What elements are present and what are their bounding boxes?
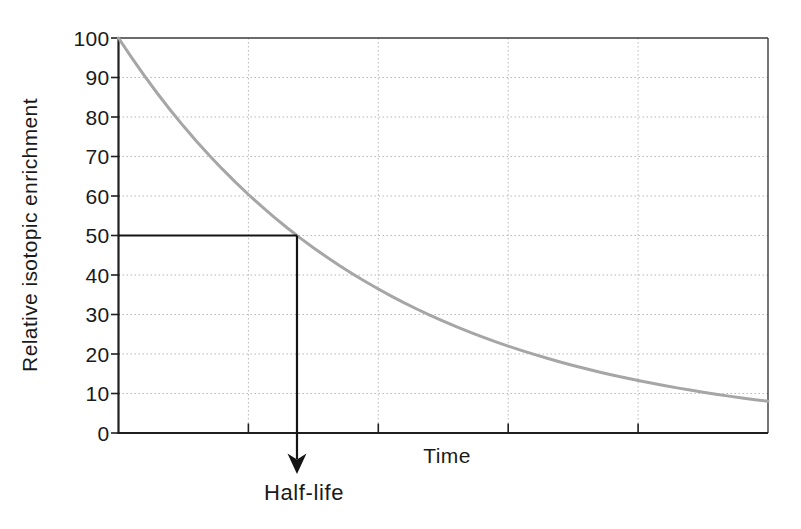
- half-life-annotation: [119, 236, 307, 475]
- x-axis-title: Time: [423, 444, 471, 467]
- y-tick-label: 0: [98, 422, 110, 445]
- y-tick-label: 70: [86, 145, 110, 168]
- decay-curve: [119, 38, 769, 401]
- y-tick-label: 100: [74, 27, 110, 50]
- decay-curve-path: [119, 38, 769, 401]
- half-life-label: Half-life: [264, 480, 344, 505]
- y-tick-label: 30: [86, 303, 110, 326]
- y-axis-title: Relative isotopic enrichment: [18, 98, 41, 372]
- y-tick-label: 60: [86, 185, 110, 208]
- y-tick-label: 40: [86, 264, 110, 287]
- y-tick-label: 80: [86, 106, 110, 129]
- y-tick-label: 20: [86, 343, 110, 366]
- decay-chart-figure: 0102030405060708090100 Relative isotopic…: [0, 0, 801, 529]
- y-tick-label: 90: [86, 66, 110, 89]
- y-axis-tick-labels: 0102030405060708090100: [74, 27, 110, 445]
- decay-chart: 0102030405060708090100 Relative isotopic…: [0, 0, 801, 529]
- y-tick-label: 50: [86, 224, 110, 247]
- y-tick-label: 10: [86, 382, 110, 405]
